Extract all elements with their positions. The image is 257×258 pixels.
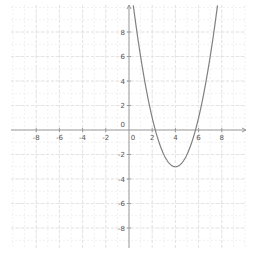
function-plot: -8-6-4-2246808642-2-4-6-80 bbox=[0, 0, 257, 258]
y-tick-label: -2 bbox=[118, 151, 125, 159]
x-tick-label: 4 bbox=[173, 134, 178, 142]
x-tick-label-origin: 0 bbox=[131, 134, 135, 142]
x-tick-label: 8 bbox=[220, 134, 224, 142]
y-tick-label-origin: 0 bbox=[121, 121, 125, 129]
x-tick-label: -6 bbox=[56, 134, 64, 142]
y-tick-label: -6 bbox=[118, 200, 126, 208]
x-tick-label: 2 bbox=[150, 134, 154, 142]
y-tick-label: 4 bbox=[121, 78, 126, 86]
y-tick-label: -8 bbox=[118, 225, 125, 233]
x-tick-label: 6 bbox=[196, 134, 201, 142]
y-tick-label: 2 bbox=[121, 102, 125, 110]
axes bbox=[11, 5, 246, 248]
y-tick-label: 6 bbox=[121, 53, 126, 61]
x-tick-label: -2 bbox=[102, 134, 109, 142]
y-tick-label: 8 bbox=[121, 29, 125, 37]
x-tick-label: -8 bbox=[33, 134, 40, 142]
x-tick-label: -4 bbox=[79, 134, 87, 142]
y-tick-label: -4 bbox=[118, 176, 126, 184]
